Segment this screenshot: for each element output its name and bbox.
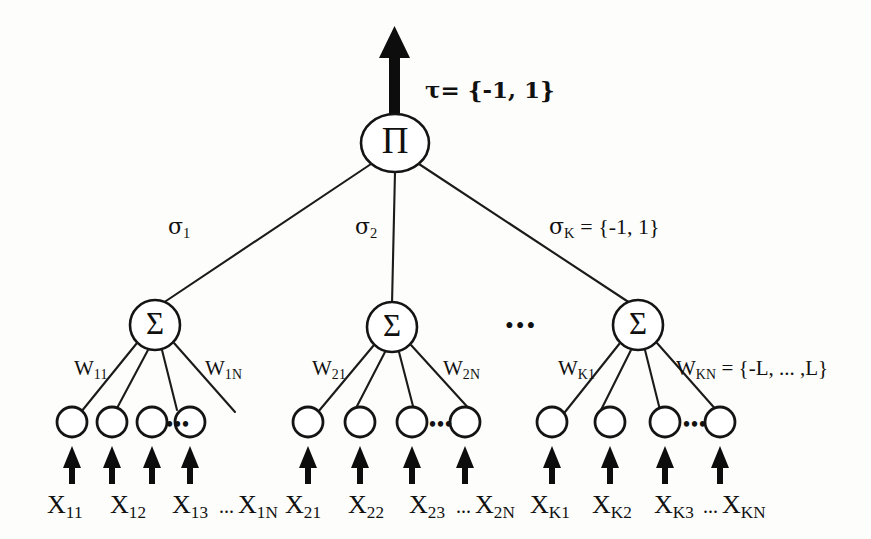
edge-sum2-in2: [355, 352, 385, 410]
input-arrow: [63, 446, 81, 484]
input-unit: [293, 407, 323, 437]
ellipsis-label-group-2: ...: [456, 496, 471, 516]
input-unit: [137, 407, 167, 437]
ellipsis-inputs-group-k: •••: [683, 414, 707, 434]
input-label-x13: X13: [172, 492, 208, 521]
input-arrow: [299, 446, 317, 484]
ellipsis-inputs-group-2: •••: [429, 414, 453, 434]
input-arrow-group: [63, 446, 729, 484]
tree-parity-machine-diagram: Π Σ Σ Σ: [0, 0, 871, 539]
input-unit: [397, 407, 427, 437]
input-arrow: [456, 446, 474, 484]
input-unit: [705, 407, 735, 437]
input-label-x21: X21: [285, 492, 321, 521]
input-arrow: [543, 446, 561, 484]
weight-label-21: W21: [312, 358, 346, 382]
input-label-xk1: XK1: [530, 492, 570, 521]
edge-pi-to-sum-2: [392, 172, 395, 304]
input-label-x22: X22: [348, 492, 384, 521]
input-label-x1n: X1N: [238, 492, 278, 521]
ellipsis-label-group-1: ...: [219, 496, 234, 516]
input-arrow: [143, 446, 161, 484]
sigma-label-2: σ2: [355, 216, 378, 241]
weight-label-11: W11: [74, 358, 108, 382]
input-unit: [57, 407, 87, 437]
sum-node-1-glyph: Σ: [146, 306, 164, 341]
input-unit: [450, 407, 480, 437]
input-unit: [345, 407, 375, 437]
input-label-xkn: XKN: [722, 492, 766, 521]
input-label-xk3: XK3: [654, 492, 694, 521]
input-unit: [97, 407, 127, 437]
edge-sum1-in2: [116, 350, 148, 410]
ellipsis-inputs-group-1: •••: [166, 414, 190, 434]
sigma-label-k: σK = {-1, 1}: [549, 216, 660, 241]
input-arrow: [656, 446, 674, 484]
input-arrow: [601, 446, 619, 484]
ellipsis-label-group-k: ...: [703, 496, 718, 516]
edge-pi-to-sum-1: [163, 164, 371, 303]
weight-label-kn: WKN = {-L, ... ,L}: [676, 358, 828, 382]
input-arrow: [351, 446, 369, 484]
input-label-x11: X11: [47, 492, 83, 521]
ellipsis-between-sum-nodes: •••: [505, 313, 537, 338]
edge-sumk-in3: [645, 350, 660, 410]
sum-node-2-glyph: Σ: [383, 308, 401, 343]
input-unit: [650, 407, 680, 437]
input-unit: [595, 407, 625, 437]
input-arrow: [711, 446, 729, 484]
edge-sumk-in2: [601, 350, 631, 410]
sum-node-k-glyph: Σ: [629, 306, 647, 341]
input-unit: [537, 407, 567, 437]
weight-label-1n: W1N: [205, 358, 242, 382]
edge-sum2-in3: [399, 352, 414, 410]
input-label-x12: X12: [110, 492, 146, 521]
weight-label-k1: WK1: [558, 358, 595, 382]
input-arrow: [103, 446, 121, 484]
sigma-label-1: σ1: [168, 216, 191, 241]
weight-label-2n: W2N: [443, 358, 480, 382]
input-arrow: [403, 446, 421, 484]
input-label-x2n: X2N: [475, 492, 515, 521]
product-node-glyph: Π: [382, 120, 409, 161]
input-label-x23: X23: [409, 492, 445, 521]
edge-sum1-in3: [162, 350, 177, 410]
output-arrow: [379, 26, 410, 114]
input-arrow: [181, 446, 199, 484]
tau-label: τ= {-1, 1}: [425, 78, 555, 102]
input-label-xk2: XK2: [592, 492, 632, 521]
